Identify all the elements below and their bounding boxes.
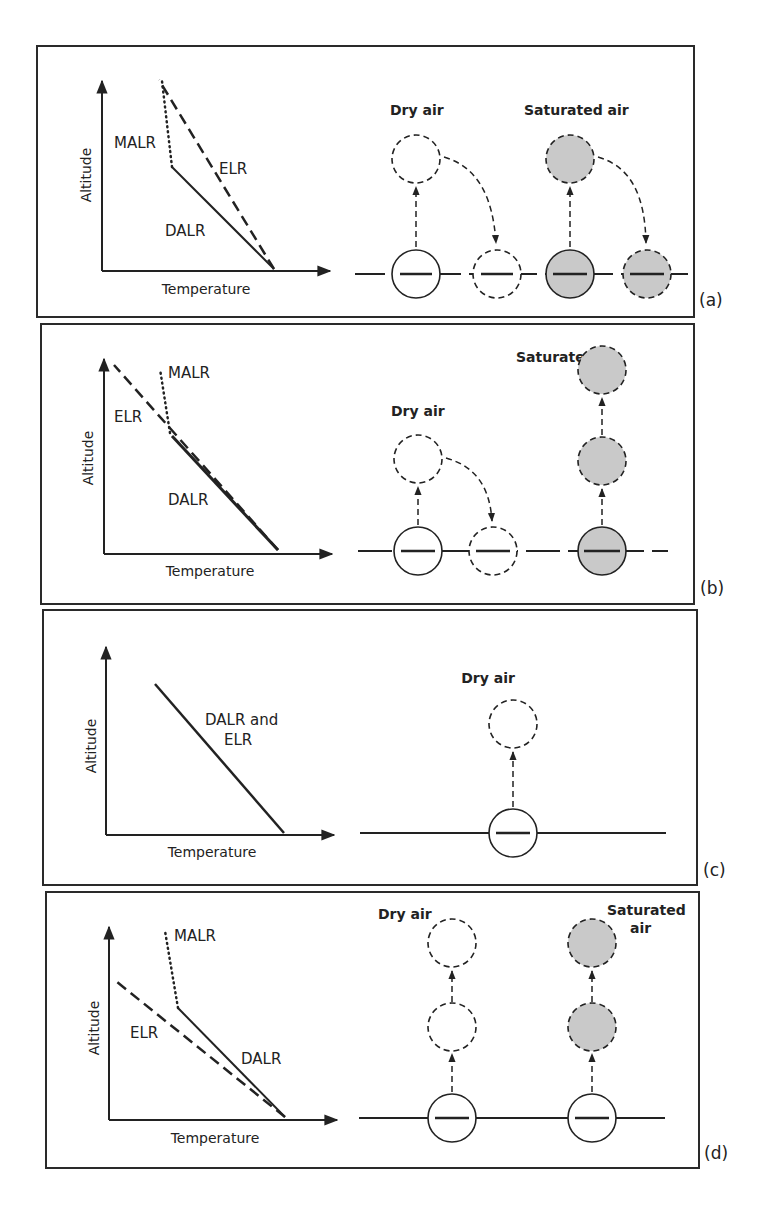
panel-b-label: (b): [700, 578, 724, 598]
saturated-air-label-line1: Saturated: [607, 902, 686, 918]
panel-d-label: (d): [704, 1143, 728, 1163]
x-axis-label: Temperature: [165, 563, 255, 579]
panel-d-graphic: Altitude Temperature MALR ELR DALR Dry a…: [47, 893, 702, 1171]
dry-parcel-risen: [394, 435, 442, 483]
lapse-rate-graph: Altitude Temperature DALR and ELR: [83, 647, 334, 860]
y-axis-label: Altitude: [80, 431, 96, 486]
y-axis-label: Altitude: [78, 148, 94, 203]
dry-air-label: Dry air: [378, 906, 432, 922]
dry-air-label: Dry air: [461, 670, 515, 686]
panel-c: Altitude Temperature DALR and ELR Dry ai…: [42, 609, 698, 886]
panel-d: Altitude Temperature MALR ELR DALR Dry a…: [45, 891, 700, 1169]
sink-arrow: [446, 458, 492, 521]
sink-arrow: [444, 157, 496, 243]
elr-label: ELR: [224, 731, 252, 749]
malr-label: MALR: [168, 364, 210, 382]
dry-parcel-middle: [428, 1003, 476, 1051]
panel-c-label: (c): [703, 860, 726, 880]
saturated-air-label-line2: air: [630, 920, 651, 936]
panel-b-graphic: Altitude Temperature MALR ELR DALR Dry a…: [42, 325, 697, 607]
elr-label: ELR: [130, 1024, 158, 1042]
dry-air-label: Dry air: [390, 102, 444, 118]
x-axis-label: Temperature: [170, 1130, 260, 1146]
dry-parcel-risen: [489, 700, 537, 748]
dalr-and-label: DALR and: [205, 711, 278, 729]
elr-label: ELR: [114, 408, 142, 426]
malr-label: MALR: [114, 134, 156, 152]
dalr-label: DALR: [241, 1050, 281, 1068]
parcel-diagram: Dry air Saturated air: [355, 102, 688, 298]
panel-a: Altitude Temperature MALR ELR DALR Dry a…: [36, 45, 695, 318]
elr-label: ELR: [219, 160, 247, 178]
saturated-parcel-middle: [578, 437, 626, 485]
dalr-line: [172, 167, 274, 269]
y-axis-label: Altitude: [86, 1001, 102, 1056]
lapse-rate-graph: Altitude Temperature MALR ELR DALR: [86, 927, 337, 1146]
parcel-diagram: Dry air Saturated air: [359, 902, 686, 1142]
saturated-parcel-risen: [546, 135, 594, 183]
x-axis-label: Temperature: [167, 844, 257, 860]
panel-a-graphic: Altitude Temperature MALR ELR DALR Dry a…: [38, 47, 697, 320]
panel-a-label: (a): [699, 290, 723, 310]
x-axis-label: Temperature: [161, 281, 251, 297]
lapse-rate-graph: Altitude Temperature MALR ELR DALR: [80, 359, 332, 579]
dalr-label: DALR: [168, 491, 208, 509]
saturated-air-label: Saturated air: [524, 102, 629, 118]
dry-parcel-top: [428, 919, 476, 967]
parcel-diagram: Dry air Saturated air: [358, 346, 668, 575]
lapse-rate-graph: Altitude Temperature MALR ELR DALR: [78, 80, 330, 297]
malr-label: MALR: [174, 927, 216, 945]
dalr-label: DALR: [165, 222, 205, 240]
parcel-diagram: Dry air: [360, 670, 666, 857]
panel-c-graphic: Altitude Temperature DALR and ELR Dry ai…: [44, 611, 700, 888]
y-axis-label: Altitude: [83, 719, 99, 774]
dry-air-label: Dry air: [391, 403, 445, 419]
dalr-elr-line: [155, 684, 284, 833]
sink-arrow: [598, 157, 646, 243]
saturated-parcel-top: [578, 346, 626, 394]
panel-b: Altitude Temperature MALR ELR DALR Dry a…: [40, 323, 695, 605]
elr-line: [159, 80, 274, 269]
saturated-parcel-middle: [568, 1003, 616, 1051]
dry-parcel-risen: [392, 135, 440, 183]
saturated-parcel-top: [568, 919, 616, 967]
